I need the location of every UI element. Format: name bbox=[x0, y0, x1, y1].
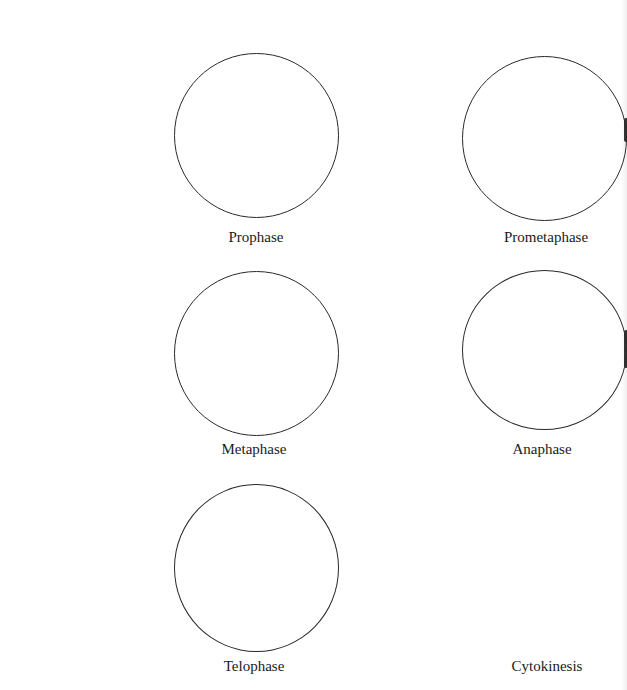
cell-circle-telophase[interactable] bbox=[174, 484, 339, 652]
phase-label-prometaphase: Prometaphase bbox=[456, 229, 627, 246]
phase-label-cytokinesis: Cytokinesis bbox=[457, 658, 627, 675]
cell-circle-prometaphase[interactable] bbox=[462, 56, 627, 221]
phase-label-prophase: Prophase bbox=[166, 229, 346, 246]
cell-circle-anaphase[interactable] bbox=[462, 270, 627, 430]
cell-circle-prophase[interactable] bbox=[174, 53, 339, 218]
phase-label-metaphase: Metaphase bbox=[164, 441, 344, 458]
cell-circle-metaphase[interactable] bbox=[174, 271, 339, 436]
phase-label-anaphase: Anaphase bbox=[452, 441, 627, 458]
phase-label-telophase: Telophase bbox=[164, 658, 344, 675]
